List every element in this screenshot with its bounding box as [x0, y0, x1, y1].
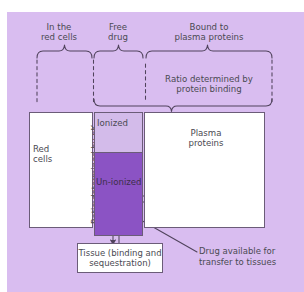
top-label-bound-plasma-proteins: Bound to plasma proteins [146, 22, 272, 42]
top-label-free-drug: Free drug [94, 22, 142, 42]
compartment-plasma-proteins-label: Plasma proteins [178, 128, 234, 148]
compartment-unionized-label: Un-ionized [96, 177, 146, 187]
label-protein-binding-ratio: Ratio determined by protein binding [148, 74, 270, 94]
compartment-ionized-label: Ionized [97, 118, 141, 128]
callout-tissue-box: Tissue (binding and sequestration) [77, 243, 163, 273]
callout-tissue-label: Tissue (binding and sequestration) [78, 248, 162, 269]
figure-root: In the red cells Free drug Bound to plas… [0, 0, 304, 292]
callout-drug-available: Drug available for transfer to tissues [199, 246, 276, 267]
compartment-unionized [94, 152, 143, 236]
compartment-red-cells [29, 112, 93, 228]
top-label-red-cells: In the red cells [28, 22, 90, 42]
compartment-red-cells-label: Red cells [33, 144, 73, 164]
